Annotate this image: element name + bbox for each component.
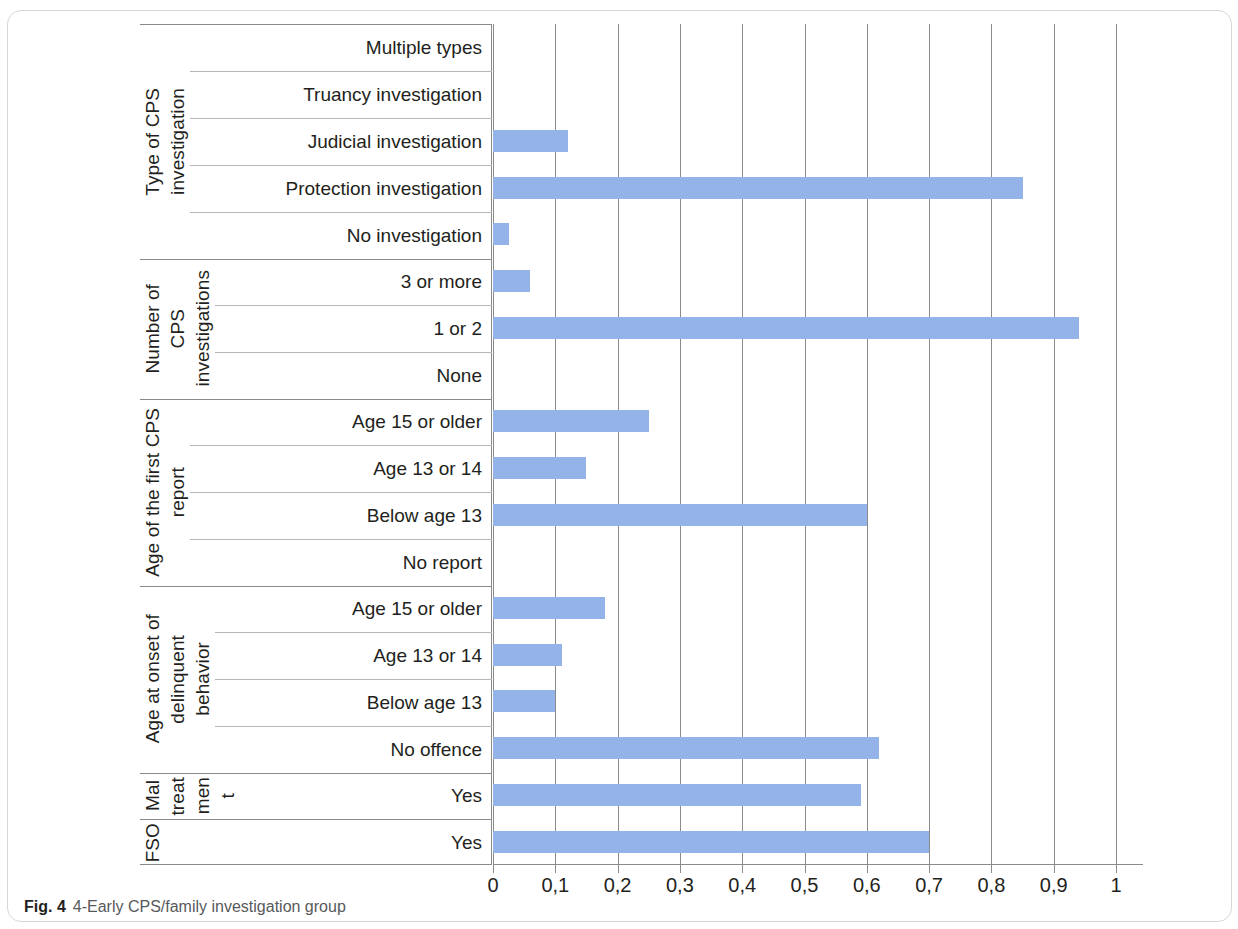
- group-header-column: Mal: [140, 780, 165, 811]
- group-header-text: Age of the first CPS: [143, 408, 163, 577]
- group-header-column: treat: [165, 777, 190, 816]
- group-header-column: investigations: [190, 270, 215, 387]
- bar: [493, 644, 562, 666]
- x-axis-tick-label: 1: [1086, 874, 1146, 897]
- bar-row: [493, 351, 1116, 398]
- group-header: Type of CPSinvestigation: [140, 25, 190, 259]
- bar: [493, 784, 861, 806]
- bar: [493, 410, 649, 432]
- bar: [493, 130, 568, 152]
- bar: [493, 597, 605, 619]
- figure-caption: Fig. 44-Early CPS/family investigation g…: [24, 898, 346, 916]
- group-header-column: t: [215, 793, 240, 798]
- group-header: Number ofCPSinvestigations: [140, 259, 215, 399]
- x-axis-tick: [929, 864, 930, 873]
- x-axis-tick: [555, 864, 556, 873]
- bar-row: [493, 211, 1116, 258]
- row-label: No report: [190, 539, 492, 586]
- x-axis-tick-label: 0,8: [961, 874, 1021, 897]
- bar: [493, 270, 530, 292]
- group-header-column: Age at onset of: [140, 614, 165, 743]
- x-axis-tick-label: 0,5: [775, 874, 835, 897]
- group-header: Maltreatment: [140, 773, 240, 820]
- group-rows: Age 15 or olderAge 13 or 14Below age 13N…: [215, 586, 492, 773]
- row-label: Truancy investigation: [190, 71, 492, 118]
- group-block: Age of the first CPSreportAge 15 or olde…: [140, 399, 492, 586]
- x-axis-tick: [680, 864, 681, 873]
- bar-row: [493, 491, 1116, 538]
- group-header-text: investigations: [193, 270, 213, 387]
- group-header-text: Age at onset of: [143, 614, 163, 743]
- figure-number: Fig. 4: [24, 898, 66, 915]
- row-label: Below age 13: [215, 679, 492, 726]
- x-axis-tick-label: 0,1: [525, 874, 585, 897]
- group-header-text: Type of CPS: [143, 88, 163, 196]
- group-block: FSOYes: [140, 819, 492, 866]
- x-axis-tick: [1054, 864, 1055, 873]
- group-rows: 3 or more1 or 2None: [215, 259, 492, 399]
- bar-row: [493, 258, 1116, 305]
- bar-row: [493, 304, 1116, 351]
- bar-row: [493, 678, 1116, 725]
- row-label-table: Type of CPSinvestigationMultiple typesTr…: [140, 24, 492, 865]
- bar-row: [493, 445, 1116, 492]
- bar-row: [493, 164, 1116, 211]
- bar: [493, 177, 1023, 199]
- group-block: MaltreatmentYes: [140, 773, 492, 820]
- group-header: FSO: [140, 819, 165, 866]
- x-axis-tick-label: 0,6: [837, 874, 897, 897]
- group-rows: Yes: [165, 819, 492, 866]
- group-header-column: FSO: [140, 823, 165, 862]
- x-axis-line: [493, 864, 1143, 865]
- bar-row: [493, 725, 1116, 772]
- group-header-column: behavior: [190, 642, 215, 716]
- group-header-text: delinquent: [168, 635, 188, 724]
- bar-row: [493, 538, 1116, 585]
- x-axis-tick: [991, 864, 992, 873]
- bar-chart: Type of CPSinvestigationMultiple typesTr…: [0, 0, 1238, 929]
- bar: [493, 831, 929, 853]
- group-block: Type of CPSinvestigationMultiple typesTr…: [140, 25, 492, 259]
- bar: [493, 223, 509, 245]
- row-label: No investigation: [190, 212, 492, 259]
- row-label: No offence: [215, 726, 492, 773]
- x-axis-tick-label: 0,9: [1024, 874, 1084, 897]
- group-header-text: report: [168, 467, 188, 517]
- group-block: Age at onset ofdelinquentbehaviorAge 15 …: [140, 586, 492, 773]
- group-header-column: Number of: [140, 284, 165, 374]
- x-axis-tick-label: 0,2: [588, 874, 648, 897]
- group-header-column: men: [190, 777, 215, 814]
- group-header-column: Type of CPS: [140, 88, 165, 196]
- group-block: Number ofCPSinvestigations3 or more1 or …: [140, 259, 492, 399]
- bar-row: [493, 772, 1116, 819]
- x-axis-tick-label: 0,4: [712, 874, 772, 897]
- row-label: Age 13 or 14: [190, 445, 492, 492]
- group-header-column: Age of the first CPS: [140, 408, 165, 577]
- x-axis-tick-label: 0,7: [899, 874, 959, 897]
- row-label: Age 13 or 14: [215, 632, 492, 679]
- x-axis-tick-label: 0: [463, 874, 523, 897]
- bar: [493, 737, 879, 759]
- row-label: Age 15 or older: [190, 399, 492, 445]
- group-header-column: CPS: [165, 309, 190, 348]
- x-axis-tick: [742, 864, 743, 873]
- group-header-text: t: [218, 793, 238, 798]
- group-header: Age at onset ofdelinquentbehavior: [140, 586, 215, 773]
- x-axis-tick-label: 0,3: [650, 874, 710, 897]
- figure-caption-text: 4-Early CPS/family investigation group: [73, 898, 346, 915]
- row-label: Below age 13: [190, 492, 492, 539]
- group-header-text: treat: [168, 777, 188, 816]
- bar-row: [493, 398, 1116, 445]
- bar: [493, 317, 1079, 339]
- row-label: None: [215, 352, 492, 399]
- group-rows: Age 15 or olderAge 13 or 14Below age 13N…: [190, 399, 492, 586]
- group-header-text: investigation: [168, 88, 188, 195]
- bar-row: [493, 24, 1116, 71]
- group-rows: Yes: [240, 773, 492, 820]
- bar: [493, 690, 555, 712]
- row-label: 3 or more: [215, 259, 492, 305]
- x-axis-tick: [1116, 864, 1117, 873]
- group-header-column: delinquent: [165, 635, 190, 724]
- row-label: Age 15 or older: [215, 586, 492, 632]
- row-label: Judicial investigation: [190, 118, 492, 165]
